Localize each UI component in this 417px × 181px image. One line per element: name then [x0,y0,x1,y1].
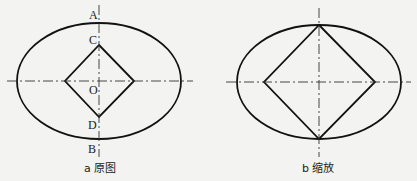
point-label-O: O [89,83,98,97]
point-label-C: C [89,33,97,47]
caption-b: b 缩放 [302,161,334,175]
figure-b-scaled: b 缩放 [226,8,411,175]
point-label-A: A [89,8,98,22]
diagram-canvas: A C O D B a 原图 b 缩放 [0,0,417,181]
figure-a-original: A C O D B a 原图 [7,5,193,175]
caption-a: a 原图 [84,162,116,175]
point-label-D: D [88,118,97,132]
point-label-B: B [88,142,96,156]
